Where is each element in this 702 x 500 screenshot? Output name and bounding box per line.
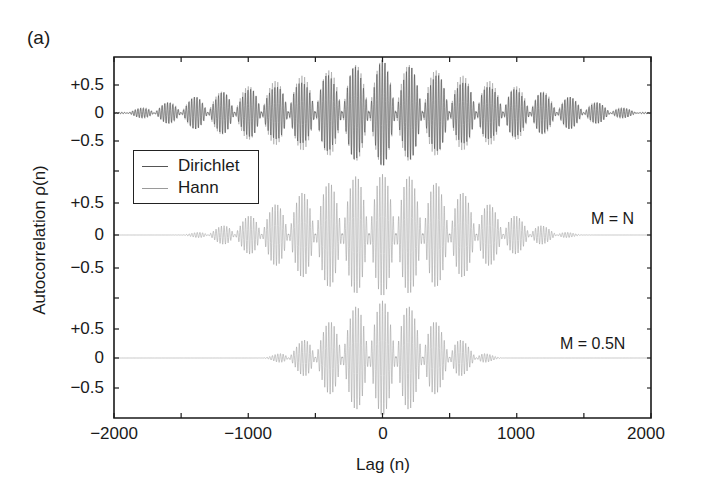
annotation-m-equals-n: M = N — [591, 210, 634, 228]
ytick-label-mid-zero: 0 — [34, 225, 104, 245]
ytick-label-top-zero: 0 — [34, 103, 104, 123]
panel-label: (a) — [27, 27, 50, 49]
ytick-label-bot-zero: 0 — [34, 348, 104, 368]
xtick-label: 0 — [378, 424, 387, 444]
legend: Dirichlet Hann — [133, 150, 259, 204]
legend-item-hann: Hann — [142, 177, 219, 199]
annotation-m-equals-half-n: M = 0.5N — [560, 335, 625, 353]
ytick-label-mid-pos: +0.5 — [34, 193, 104, 213]
xtick-label: 2000 — [627, 424, 665, 444]
xtick-label: −2000 — [90, 424, 138, 444]
ytick-label-bot-pos: +0.5 — [34, 319, 104, 339]
legend-item-dirichlet: Dirichlet — [142, 155, 239, 177]
axes-frame — [114, 57, 651, 418]
ytick-label-top-pos: +0.5 — [34, 75, 104, 95]
xtick-label: −1000 — [224, 424, 272, 444]
xtick-label: 1000 — [497, 424, 535, 444]
legend-swatch-hann — [142, 188, 168, 189]
autocorrelation-figure: (a) Autocorrelation ρ(n) Lag (n) +0.5 0 … — [0, 0, 702, 500]
legend-swatch-dirichlet — [142, 166, 168, 167]
series-hann-panel-2 — [114, 301, 651, 415]
legend-label-dirichlet: Dirichlet — [178, 156, 239, 176]
ytick-label-mid-neg: −0.5 — [34, 258, 104, 278]
legend-label-hann: Hann — [178, 178, 219, 198]
ytick-label-bot-neg: −0.5 — [34, 378, 104, 398]
ytick-label-top-neg: −0.5 — [34, 131, 104, 151]
x-axis-label: Lag (n) — [356, 455, 410, 475]
